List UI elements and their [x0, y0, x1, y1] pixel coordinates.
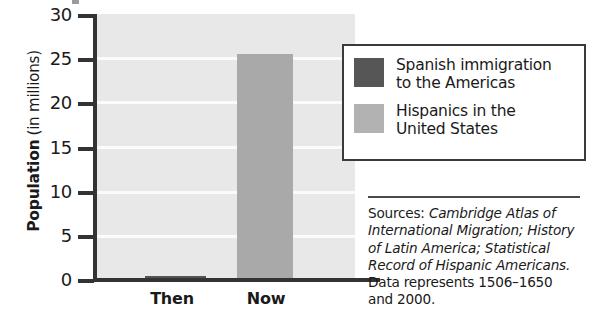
gridline-20	[96, 101, 355, 104]
y-tick-mark-20	[78, 102, 94, 106]
sources-line-1: Sources: Cambridge Atlas of	[368, 205, 590, 222]
sources-title-part-1: Cambridge Atlas of	[429, 205, 556, 221]
sources-title-part-3: of Latin America; Statistical	[368, 240, 590, 257]
y-tick-mark-5	[78, 235, 94, 239]
legend-item-spanish-immigration: Spanish immigration to the Americas	[354, 56, 584, 93]
legend-label-hispanics-us: Hispanics in the United States	[396, 102, 516, 139]
clipped-glyph-remnant	[72, 0, 79, 4]
sources-block: Sources: Cambridge Atlas of Internationa…	[368, 196, 590, 309]
legend-swatch-dark	[354, 58, 384, 87]
legend-label-spanish-immigration: Spanish immigration to the Americas	[396, 56, 552, 93]
y-tick-label-5: 5	[12, 227, 72, 245]
sources-title-part-4: Record of Hispanic Americans.	[368, 257, 590, 274]
y-tick-label-10: 10	[12, 183, 72, 201]
x-category-label-now: Now	[228, 289, 304, 308]
gridline-5	[96, 235, 355, 238]
plot-area	[96, 14, 355, 281]
sources-divider	[368, 196, 580, 198]
legend-item-hispanics-us: Hispanics in the United States	[354, 102, 584, 139]
y-tick-mark-0	[78, 279, 94, 283]
data-note-line-1: Data represents 1506–1650	[368, 274, 590, 291]
legend-swatch-light	[354, 104, 384, 133]
data-note-line-2: and 2000.	[368, 291, 590, 308]
y-tick-mark-15	[78, 147, 94, 151]
y-tick-mark-30	[78, 14, 94, 18]
sources-text: Sources: Cambridge Atlas of Internationa…	[368, 205, 590, 309]
gridline-10	[96, 191, 355, 194]
y-tick-mark-10	[78, 191, 94, 195]
y-tick-label-0: 0	[12, 271, 72, 289]
y-tick-mark-25	[78, 58, 94, 62]
gridline-25	[96, 57, 355, 60]
y-tick-label-20: 20	[12, 94, 72, 112]
y-tick-label-30: 30	[12, 6, 72, 24]
bar-now	[237, 54, 293, 281]
sources-title-part-2: International Migration; History	[368, 222, 590, 239]
y-tick-label-15: 15	[12, 139, 72, 157]
x-category-label-then: Then	[132, 289, 212, 308]
sources-label: Sources:	[368, 205, 425, 221]
chart-legend: Spanish immigration to the Americas Hisp…	[342, 44, 586, 161]
y-tick-label-25: 25	[12, 50, 72, 68]
x-axis-line	[93, 278, 380, 282]
gridline-15	[96, 146, 355, 149]
